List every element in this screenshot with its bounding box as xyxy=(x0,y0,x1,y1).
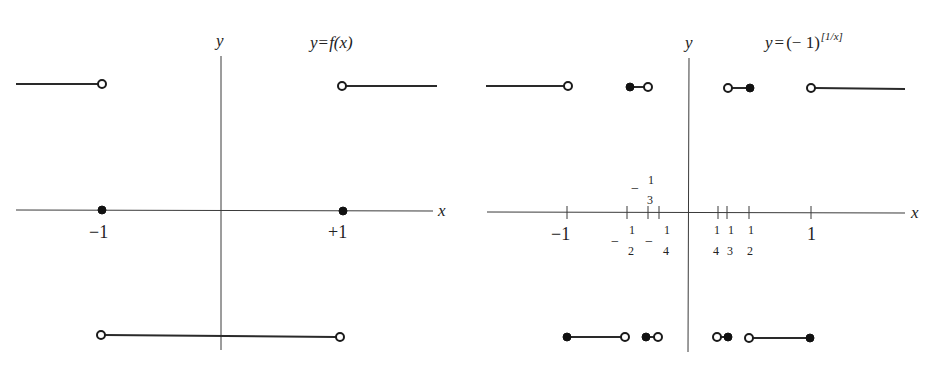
left-x-axis xyxy=(16,210,433,211)
open-dot xyxy=(644,83,652,91)
left-tick-label-pos1: +1 xyxy=(328,222,347,242)
open-dot xyxy=(724,84,732,92)
left-x-axis-label: x xyxy=(437,201,446,220)
figure-canvas: x y y=f(x) −1 +1 x y y=(− 1)[1/x] xyxy=(0,0,928,372)
open-dot xyxy=(807,84,815,92)
left-y-axis-label: y xyxy=(214,31,224,50)
tick-label-neg-third-num: 1 xyxy=(648,173,654,187)
left-segment-bottom xyxy=(105,335,336,337)
tick-label-neg-half-den: 2 xyxy=(628,244,634,258)
tick-label-neg-half-num: 1 xyxy=(629,223,635,237)
open-dot xyxy=(745,334,753,342)
open-dot xyxy=(713,333,721,341)
right-y-axis-label: y xyxy=(683,33,693,52)
tick-label-quarter-den: 4 xyxy=(713,244,719,258)
tick-label-neg1: −1 xyxy=(551,224,570,244)
tick-label-half-num: 1 xyxy=(748,223,754,237)
tick-label-third-num: 1 xyxy=(728,223,734,237)
closed-dot xyxy=(98,206,106,214)
closed-dot xyxy=(626,83,634,91)
right-panel: x y y=(− 1)[1/x] −1 − 1 2 − 1 3 xyxy=(486,30,919,352)
left-tick-label-neg1: −1 xyxy=(89,222,108,242)
tick-label-neg-quarter-sign: − xyxy=(645,234,653,249)
closed-dot xyxy=(806,334,814,342)
closed-dot xyxy=(746,84,754,92)
left-panel: x y y=f(x) −1 +1 xyxy=(16,31,446,350)
tick-label-neg-quarter-num: 1 xyxy=(664,223,670,237)
open-dot xyxy=(564,82,572,90)
tick-label-one: 1 xyxy=(807,224,816,244)
left-title: y=f(x) xyxy=(308,33,353,52)
tick-label-neg-quarter-den: 4 xyxy=(663,244,669,258)
open-dot xyxy=(338,82,346,90)
closed-dot xyxy=(642,333,650,341)
tick-label-third-den: 3 xyxy=(727,244,733,258)
closed-dot xyxy=(724,333,732,341)
open-dot xyxy=(98,80,106,88)
right-x-axis xyxy=(487,212,905,213)
tick-label-quarter-num: 1 xyxy=(714,223,720,237)
closed-dot xyxy=(563,333,571,341)
closed-dot xyxy=(339,207,347,215)
right-title: y=(− 1)[1/x] xyxy=(763,30,843,52)
tick-label-neg-half-sign: − xyxy=(611,234,619,249)
right-tick-labels: −1 − 1 2 − 1 3 − 1 4 1 4 1 3 1 2 1 xyxy=(551,173,816,258)
open-dot xyxy=(621,333,629,341)
open-dot xyxy=(654,333,662,341)
tick-label-neg-third-sign: − xyxy=(631,181,639,196)
open-dot xyxy=(336,333,344,341)
tick-label-neg-third-den: 3 xyxy=(647,193,653,207)
open-dot xyxy=(97,331,105,339)
tick-label-half-den: 2 xyxy=(747,244,753,258)
segment-top-far-right xyxy=(815,88,905,89)
right-x-axis-label: x xyxy=(910,203,919,222)
right-y-axis xyxy=(688,58,689,352)
